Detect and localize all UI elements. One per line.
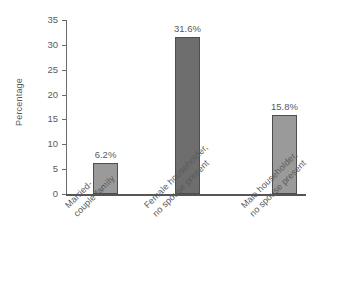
y-tick-label-0: 0	[34, 189, 58, 199]
y-axis-line	[66, 20, 67, 195]
bar-value-label-1: 31.6%	[158, 23, 218, 34]
y-axis-title: Percentage	[14, 64, 24, 140]
y-tick-label-20: 20	[34, 90, 58, 100]
bar-value-label-0: 6.2%	[76, 149, 136, 160]
bar-value-label-2: 15.8%	[255, 101, 315, 112]
y-tick-mark-10	[62, 144, 66, 145]
y-tick-mark-0	[62, 194, 66, 195]
y-tick-label-30: 30	[34, 40, 58, 50]
y-tick-label-5: 5	[34, 164, 58, 174]
y-tick-mark-15	[62, 119, 66, 120]
y-tick-label-25: 25	[34, 65, 58, 75]
y-tick-mark-20	[62, 95, 66, 96]
y-tick-label-15: 15	[34, 114, 58, 124]
y-tick-mark-25	[62, 70, 66, 71]
y-tick-mark-35	[62, 20, 66, 21]
y-tick-label-10: 10	[34, 139, 58, 149]
y-tick-label-35: 35	[34, 15, 58, 25]
y-tick-mark-5	[62, 169, 66, 170]
y-tick-mark-30	[62, 45, 66, 46]
bar-chart: Percentage 0 5 10 15 20 25 30 35 6.2% 31…	[0, 0, 338, 291]
